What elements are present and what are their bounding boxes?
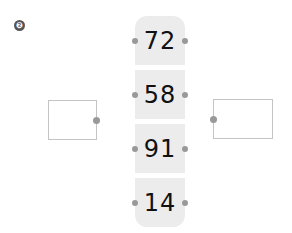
connector-dot-right[interactable] — [93, 117, 100, 124]
number-value: 58 — [144, 81, 177, 109]
number-value: 14 — [144, 189, 177, 217]
number-cell: 91 — [135, 124, 185, 173]
connector-dot-right[interactable] — [182, 38, 188, 44]
connector-dot-left[interactable] — [132, 92, 138, 98]
connector-dot-right[interactable] — [182, 146, 188, 152]
number-value: 72 — [144, 27, 177, 55]
connector-dot-right[interactable] — [182, 92, 188, 98]
left-answer-box[interactable] — [48, 100, 97, 140]
connector-dot-left[interactable] — [132, 200, 138, 206]
number-value: 91 — [144, 135, 177, 163]
connector-dot-right[interactable] — [182, 200, 188, 206]
number-cell: 58 — [135, 70, 185, 119]
connector-dot-left[interactable] — [210, 116, 217, 123]
connector-dot-left[interactable] — [132, 146, 138, 152]
connector-dot-left[interactable] — [132, 38, 138, 44]
problem-number-badge: ❷ — [14, 20, 25, 31]
number-cell: 14 — [135, 178, 185, 227]
number-cell: 72 — [135, 16, 185, 65]
number-column: 72 58 91 14 — [135, 16, 185, 232]
right-answer-box[interactable] — [213, 99, 273, 139]
